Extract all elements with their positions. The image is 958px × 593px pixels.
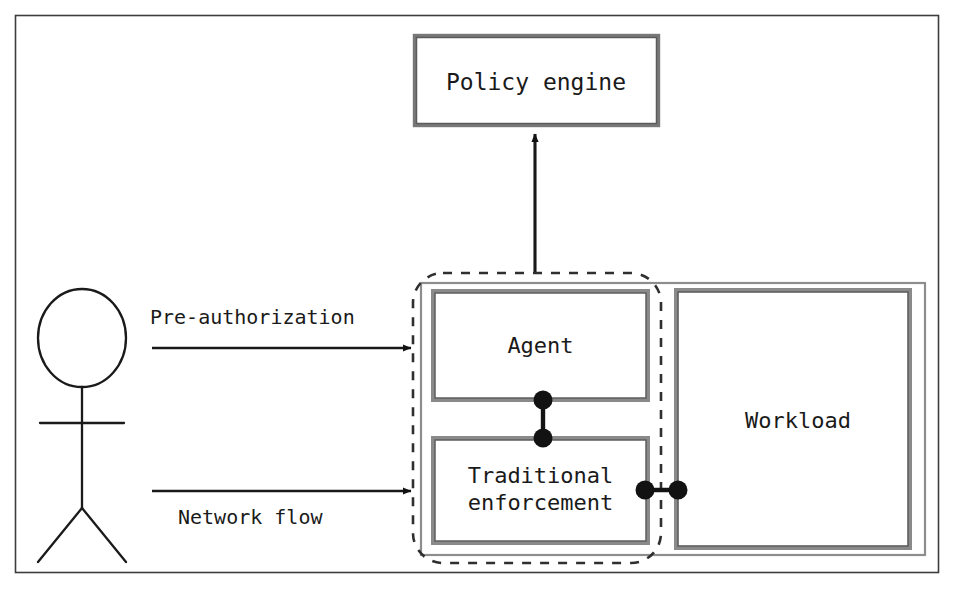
diagram-canvas: Policy engine Agent Traditional enforcem… bbox=[0, 0, 958, 593]
actor-leg-right bbox=[82, 508, 126, 562]
actor-head bbox=[38, 289, 126, 387]
traditional-enforcement-box bbox=[433, 438, 648, 543]
actor-leg-left bbox=[38, 508, 82, 562]
agent-box bbox=[433, 291, 648, 400]
policy-engine-box bbox=[415, 36, 658, 125]
diagram-vector-layer bbox=[0, 0, 958, 593]
workload-box bbox=[676, 290, 910, 548]
actor-stick-figure bbox=[38, 289, 126, 562]
